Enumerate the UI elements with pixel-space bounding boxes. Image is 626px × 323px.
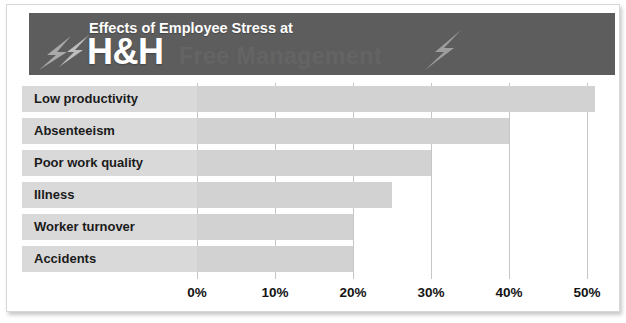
bar-row: Illness [7,182,621,208]
x-axis-tick-label: 0% [187,285,207,300]
chart-header-banner: Free Management Effects of Employee Stre… [29,13,615,75]
bar-label: Accidents [34,246,96,272]
bar-row: Absenteeism [7,118,621,144]
x-axis-tick-label: 10% [261,285,288,300]
bar-row: Worker turnover [7,214,621,240]
bar-row: Accidents [7,246,621,272]
x-axis: 0%10%20%30%40%50% [7,279,621,311]
x-axis-tick-label: 50% [573,285,600,300]
chart-screenshot: Free Management Effects of Employee Stre… [0,0,626,323]
lightning-bolt-icon [37,35,91,71]
x-axis-tick-label: 40% [495,285,522,300]
bar-label: Illness [34,182,74,208]
plot-area: Low productivityAbsenteeismPoor work qua… [7,83,621,311]
bar-label: Low productivity [34,86,138,112]
x-axis-tick-label: 20% [339,285,366,300]
bar-label: Absenteeism [34,118,115,144]
bar [197,86,595,112]
chart-card: Free Management Effects of Employee Stre… [6,4,620,312]
bar-label: Poor work quality [34,150,143,176]
bar [197,214,353,240]
bar-row: Low productivity [7,86,621,112]
bar-rows: Low productivityAbsenteeismPoor work qua… [7,83,621,279]
x-axis-tick-label: 30% [417,285,444,300]
header-brand-title: H&H [87,33,164,71]
bar [197,182,392,208]
ghost-watermark-text: Free Management [179,43,479,71]
bar [197,246,353,272]
bar-label: Worker turnover [34,214,135,240]
bar-row: Poor work quality [7,150,621,176]
bar [197,150,431,176]
bar [197,118,509,144]
